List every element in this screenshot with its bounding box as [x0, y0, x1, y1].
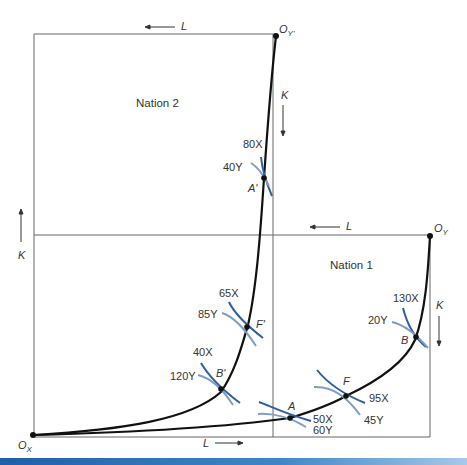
point-f-prime-x: 65X: [219, 287, 239, 299]
point-b: [413, 334, 419, 340]
point-b-prime-label: B': [216, 367, 226, 379]
point-f: [343, 393, 349, 399]
point-f-label: F: [343, 375, 351, 387]
top-l-label: L: [181, 20, 187, 32]
point-b-prime: [218, 386, 224, 392]
nation1-k-label: K: [436, 299, 444, 311]
nation1-label: Nation 1: [330, 259, 373, 271]
point-a-label: A: [287, 400, 295, 412]
edgeworth-diagram: Nation 2 Nation 1 L L K K K L OX OY' OY …: [0, 0, 467, 465]
point-f-prime-label: F': [256, 318, 266, 330]
origin-oy-prime-label: OY': [279, 23, 295, 38]
point-f-x: 95X: [369, 392, 389, 404]
origin-oy-label: OY: [434, 222, 449, 237]
origin-ox-dot: [30, 432, 36, 438]
nation2-label: Nation 2: [136, 97, 179, 109]
point-b-x: 130X: [393, 292, 419, 304]
point-a: [287, 415, 293, 421]
point-b-label: B: [401, 334, 408, 346]
point-b-y: 20Y: [368, 314, 388, 326]
point-a-prime: [261, 175, 267, 181]
point-f-prime: [244, 324, 250, 330]
nation1-l-label: L: [346, 220, 352, 232]
point-b-prime-y: 120Y: [170, 370, 196, 382]
bottom-l-label: L: [203, 437, 209, 449]
origin-ox-label: OX: [18, 439, 33, 454]
point-f-y: 45Y: [364, 414, 384, 426]
left-k-label: K: [18, 249, 26, 261]
point-a-prime-label: A': [247, 182, 258, 194]
nation2-k-label: K: [281, 89, 289, 101]
point-a-prime-x: 80X: [243, 138, 263, 150]
bottom-accent-bar: [0, 458, 467, 465]
point-b-prime-x: 40X: [193, 346, 213, 358]
origin-oy-dot: [427, 233, 433, 239]
point-a-prime-y: 40Y: [223, 161, 243, 173]
point-a-y: 60Y: [313, 424, 333, 436]
point-f-prime-y: 85Y: [198, 308, 218, 320]
